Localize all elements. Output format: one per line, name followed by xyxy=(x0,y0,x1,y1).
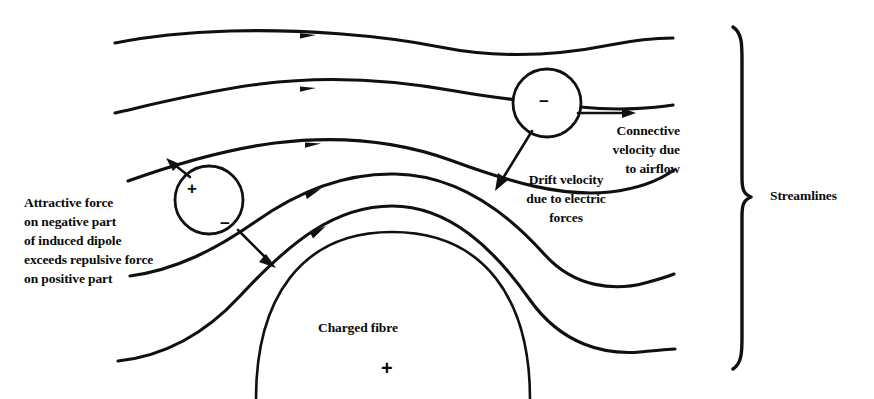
attractive-force-label: Attractive force on negative part of ind… xyxy=(24,193,153,288)
flow-arrow-icon-1 xyxy=(300,33,316,38)
particle-negative-charge-sign: − xyxy=(539,93,549,110)
charged-fibre-arc xyxy=(256,232,530,399)
charged-fibre-label: Charged fibre xyxy=(318,318,398,337)
flow-arrow-icon-2 xyxy=(300,86,316,91)
streamlines-brace xyxy=(733,27,751,369)
streamline-2 xyxy=(115,80,673,113)
fibre-positive-charge-sign: + xyxy=(381,358,393,378)
diagram-canvas: Attractive force on negative part of ind… xyxy=(0,0,874,399)
connective-velocity-label: Connective velocity due to airflow xyxy=(560,121,680,178)
drift-velocity-label: Drift velocity due to electric forces xyxy=(500,170,632,227)
streamline-1 xyxy=(115,31,673,55)
dipole-positive-charge-sign: + xyxy=(187,180,197,197)
streamlines-label: Streamlines xyxy=(770,186,837,205)
induced-dipole-particle xyxy=(175,166,243,234)
dipole-negative-charge-sign: − xyxy=(220,215,230,232)
flow-arrow-icon-3 xyxy=(305,143,321,148)
